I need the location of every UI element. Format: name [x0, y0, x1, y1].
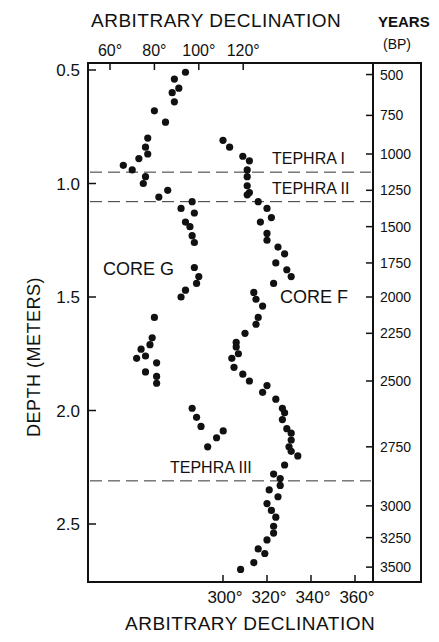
core-g-point: [169, 89, 176, 96]
core-g-point: [191, 264, 198, 271]
top-tick-label: 80°: [142, 42, 166, 59]
depth-tick-label: 1.5: [56, 288, 80, 307]
core-g-point: [142, 144, 149, 151]
depth-axis-ticks: 0.51.01.52.02.5: [56, 61, 96, 534]
tephra-layers: TEPHRA ITEPHRA IITEPHRA III: [90, 150, 371, 481]
year-label: 2750: [380, 439, 411, 455]
core-g-point: [204, 443, 211, 450]
year-label: 1250: [380, 182, 411, 198]
core-f-point: [252, 296, 259, 303]
core-f-point: [281, 250, 288, 257]
top-tick-label: 120°: [227, 42, 260, 59]
year-label: 1000: [380, 146, 411, 162]
core-f-point: [288, 430, 295, 437]
core-g-point: [193, 280, 200, 287]
year-label: 3000: [380, 498, 411, 514]
core-f-point: [255, 545, 262, 552]
core-f-point: [272, 514, 279, 521]
core-f-point: [235, 350, 242, 357]
core-g-point: [129, 166, 136, 173]
core-f-point: [281, 461, 288, 468]
core-f-point: [228, 355, 235, 362]
core-g-point: [120, 162, 127, 169]
year-label: 1500: [380, 219, 411, 235]
top-axis-ticks: 60°80°100°120°: [98, 42, 260, 70]
core-g-point: [142, 368, 149, 375]
year-label: 1750: [380, 255, 411, 271]
core-g-point: [153, 380, 160, 387]
year-label: 2250: [380, 325, 411, 341]
depth-tick-label: 0.5: [56, 61, 80, 80]
core-f-point: [241, 330, 248, 337]
core-f-point: [259, 389, 266, 396]
year-label: 500: [380, 67, 404, 83]
core-f-point: [252, 321, 259, 328]
core-f-point: [268, 507, 275, 514]
depth-tick-label: 2.5: [56, 515, 80, 534]
core-g-point: [171, 98, 178, 105]
core-g-point: [175, 85, 182, 92]
core-f-point: [270, 529, 277, 536]
core-f-point: [288, 273, 295, 280]
core-f-point: [244, 191, 251, 198]
right-axis-title: YEARS: [378, 13, 430, 30]
core-f-point: [255, 314, 262, 321]
core-f-point: [263, 205, 270, 212]
core-g-point: [137, 346, 144, 353]
core-f-point: [244, 182, 251, 189]
y-axis-title: DEPTH (METERS): [24, 277, 44, 437]
core-f-point: [270, 470, 277, 477]
right-axis-subtitle: (BP): [383, 36, 411, 52]
core-f-point: [263, 536, 270, 543]
core-g-point: [182, 287, 189, 294]
core-f-point: [277, 475, 284, 482]
tephra-label: TEPHRA I: [272, 150, 345, 167]
core-f-point: [233, 343, 240, 350]
bottom-tick-label: 300°: [207, 588, 242, 607]
core-g-point: [144, 150, 151, 157]
core-g-point: [153, 373, 160, 380]
core-g-point: [135, 155, 142, 162]
core-f-point: [263, 382, 270, 389]
year-label: 3500: [380, 559, 411, 575]
bottom-tick-label: 320°: [251, 588, 286, 607]
tephra-label: TEPHRA III: [170, 459, 252, 476]
core-f-point: [259, 302, 266, 309]
core-f-point: [266, 486, 273, 493]
top-tick-label: 100°: [182, 42, 215, 59]
core-f-point: [274, 243, 281, 250]
core-g-point: [171, 75, 178, 82]
core-f-point: [226, 144, 233, 151]
core-g-point: [220, 427, 227, 434]
core-f-point: [244, 173, 251, 180]
core-g-point: [182, 69, 189, 76]
core-g-label: CORE G: [103, 259, 174, 279]
core-f-point: [272, 396, 279, 403]
core-g-point: [142, 173, 149, 180]
top-tick-label: 60°: [98, 42, 122, 59]
core-f-point: [288, 436, 295, 443]
core-f-point: [230, 364, 237, 371]
year-label: 3250: [380, 530, 411, 546]
top-axis-title: ARBITRARY DECLINATION: [91, 10, 341, 31]
tephra-label: TEPHRA II: [272, 180, 349, 197]
core-f-point: [263, 230, 270, 237]
core-f-point: [261, 550, 268, 557]
core-f-point: [246, 157, 253, 164]
core-g-point: [142, 352, 149, 359]
core-f-point: [263, 500, 270, 507]
bottom-axis-title: ARBITRARY DECLINATION: [125, 613, 375, 634]
core-g-point: [153, 359, 160, 366]
core-g-point: [144, 135, 151, 142]
plot-frame: [88, 63, 373, 582]
core-g-point: [146, 341, 153, 348]
core-f-label: CORE F: [280, 287, 348, 307]
core-f-point: [270, 280, 277, 287]
core-f-point: [255, 198, 262, 205]
core-g-point: [149, 334, 156, 341]
core-f-point: [250, 289, 257, 296]
core-f-point: [239, 153, 246, 160]
bottom-tick-label: 340°: [295, 588, 330, 607]
core-f-point: [274, 493, 281, 500]
core-g-point: [177, 293, 184, 300]
